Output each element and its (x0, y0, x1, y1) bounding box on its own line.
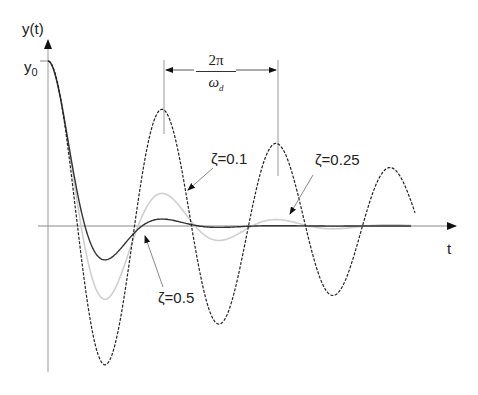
zeta-01-leader (188, 168, 213, 190)
zeta-01-label: ζ=0.1 (211, 150, 247, 167)
y0-main: y (24, 58, 32, 75)
y0-sub: 0 (32, 66, 38, 78)
zeta-05-leader (145, 236, 163, 287)
period-label: 2π ωd (196, 52, 236, 93)
y0-label: y0 (24, 58, 38, 78)
chart-canvas (0, 0, 478, 395)
curve-zeta-0-25 (48, 61, 411, 299)
zeta-025-label: ζ=0.25 (315, 151, 360, 168)
y-axis-label: y(t) (22, 20, 44, 37)
curve-zeta-0-1 (48, 61, 415, 365)
period-denominator: ωd (196, 72, 236, 93)
x-axis-label: t (447, 240, 451, 257)
period-numerator: 2π (196, 52, 236, 72)
zeta-05-label: ζ=0.5 (158, 289, 194, 306)
